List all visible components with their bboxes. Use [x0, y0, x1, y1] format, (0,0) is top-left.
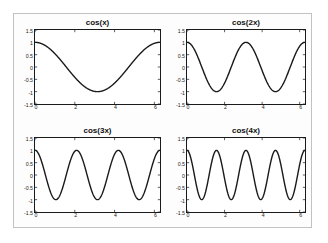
ytick-label: 1.5 — [26, 137, 33, 142]
data-series-line — [35, 42, 160, 91]
plot-title: cos(4x) — [186, 126, 306, 136]
ytick-label: -0.5 — [176, 186, 185, 191]
tick-marks — [187, 30, 305, 104]
ytick-label: -0.5 — [24, 78, 33, 83]
ytick-label: -1.5 — [176, 103, 185, 108]
ytick-label: 0.5 — [178, 53, 185, 58]
ytick-label: 1 — [182, 149, 185, 154]
axes-box: -1.5-1-0.500.511.50246 — [34, 29, 161, 105]
data-series-line — [187, 150, 305, 199]
data-series-line — [35, 150, 160, 199]
ytick-label: 0.5 — [178, 161, 185, 166]
xtick-label: 0 — [35, 105, 38, 110]
ytick-label: 0.5 — [26, 53, 33, 58]
xtick-label: 4 — [114, 105, 117, 110]
subplot-3: cos(3x)-1.5-1-0.500.511.50246 — [34, 126, 161, 222]
ytick-label: 1.5 — [178, 29, 185, 34]
xtick-label: 4 — [262, 105, 265, 110]
plot-title: cos(3x) — [34, 126, 161, 136]
subplot-2: cos(2x)-1.5-1-0.500.511.50246 — [186, 18, 306, 114]
ytick-label: 1.5 — [26, 29, 33, 34]
ytick-label: 0 — [182, 174, 185, 179]
subplot-1: cos(x)-1.5-1-0.500.511.50246 — [34, 18, 161, 114]
data-series-line — [187, 42, 305, 91]
xtick-label: 2 — [224, 213, 227, 218]
plot-canvas — [187, 30, 305, 104]
tick-marks — [35, 138, 160, 212]
xtick-label: 6 — [299, 105, 302, 110]
xtick-label: 2 — [74, 213, 77, 218]
ytick-label: 0 — [30, 66, 33, 71]
axes-box: -1.5-1-0.500.511.50246 — [186, 29, 306, 105]
ytick-label: -1 — [180, 198, 185, 203]
plot-title: cos(x) — [34, 18, 161, 28]
ytick-label: -1.5 — [24, 103, 33, 108]
ytick-label: 1 — [182, 41, 185, 46]
tick-marks — [35, 30, 160, 104]
axes-box: -1.5-1-0.500.511.50246 — [34, 137, 161, 213]
ytick-label: -0.5 — [24, 186, 33, 191]
xtick-label: 4 — [262, 213, 265, 218]
ytick-label: 0 — [182, 66, 185, 71]
tick-marks — [187, 138, 305, 212]
ytick-label: -1 — [28, 198, 33, 203]
ytick-label: 0.5 — [26, 161, 33, 166]
ytick-label: 1.5 — [178, 137, 185, 142]
ytick-label: -1.5 — [176, 211, 185, 216]
plot-canvas — [187, 138, 305, 212]
xtick-label: 6 — [154, 105, 157, 110]
axes-box: -1.5-1-0.500.511.50246 — [186, 137, 306, 213]
figure-window: cos(x)-1.5-1-0.500.511.50246cos(2x)-1.5-… — [13, 13, 312, 228]
ytick-label: -1 — [28, 90, 33, 95]
subplot-4: cos(4x)-1.5-1-0.500.511.50246 — [186, 126, 306, 222]
ytick-label: -1.5 — [24, 211, 33, 216]
plot-canvas — [35, 30, 160, 104]
ytick-label: -0.5 — [176, 78, 185, 83]
ytick-label: 1 — [30, 149, 33, 154]
xtick-label: 0 — [187, 105, 190, 110]
ytick-label: 1 — [30, 41, 33, 46]
xtick-label: 6 — [299, 213, 302, 218]
xtick-label: 2 — [224, 105, 227, 110]
xtick-label: 0 — [187, 213, 190, 218]
xtick-label: 4 — [114, 213, 117, 218]
plot-title: cos(2x) — [186, 18, 306, 28]
xtick-label: 6 — [154, 213, 157, 218]
plot-canvas — [35, 138, 160, 212]
xtick-label: 0 — [35, 213, 38, 218]
ytick-label: 0 — [30, 174, 33, 179]
xtick-label: 2 — [74, 105, 77, 110]
ytick-label: -1 — [180, 90, 185, 95]
